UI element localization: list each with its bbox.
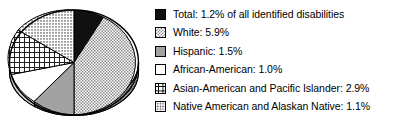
legend-swatch-african-american-icon (155, 64, 166, 75)
pie-chart-graphic (4, 2, 144, 124)
legend-label-african-american: African-American: 1.0% (173, 64, 282, 75)
legend-item-white: White: 5.9% (155, 24, 398, 43)
legend-item-african-american: African-American: 1.0% (155, 61, 398, 80)
legend-swatch-white-icon (155, 27, 166, 38)
legend-label-white: White: 5.9% (173, 27, 229, 38)
legend-label-native-american: Native American and Alaskan Native: 1.1% (173, 101, 370, 112)
pie-chart-figure: Total: 1.2% of all identified disabiliti… (0, 0, 398, 126)
legend-label-asian-american: Asian-American and Pacific Islander: 2.9… (173, 83, 369, 94)
legend: Total: 1.2% of all identified disabiliti… (155, 5, 398, 116)
legend-swatch-total-icon (155, 9, 166, 20)
legend-item-total: Total: 1.2% of all identified disabiliti… (155, 5, 398, 24)
legend-swatch-native-american-icon (155, 101, 166, 112)
legend-item-hispanic: Hispanic: 1.5% (155, 42, 398, 61)
legend-item-asian-american: Asian-American and Pacific Islander: 2.9… (155, 79, 398, 98)
legend-label-hispanic: Hispanic: 1.5% (173, 46, 242, 57)
legend-swatch-asian-american-icon (155, 83, 166, 94)
legend-swatch-hispanic-icon (155, 46, 166, 57)
legend-item-native-american: Native American and Alaskan Native: 1.1% (155, 98, 398, 117)
pie-svg (4, 2, 144, 124)
legend-label-total: Total: 1.2% of all identified disabiliti… (173, 9, 344, 20)
